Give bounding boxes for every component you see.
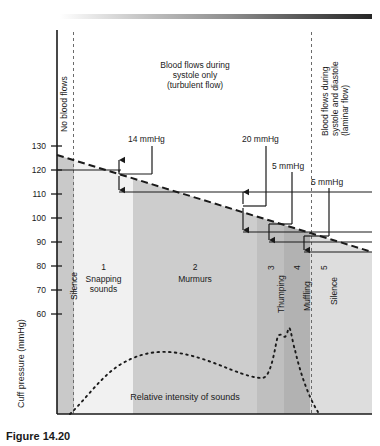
zone-4-label: Muffling [302, 281, 312, 311]
zone-1-label: Snapping sounds [74, 274, 133, 294]
relative-intensity-label: Relative intensity of sounds [105, 392, 265, 402]
turbulent-line-3: (turbulent flow) [130, 80, 260, 90]
zone-1-label-line1: Snapping [74, 274, 133, 284]
laminar-line-1: Blood flows during [320, 61, 330, 136]
zone-2-label: Murmurs [133, 274, 257, 284]
y-tick-60: 60 [22, 309, 46, 319]
zone-1-label-line2: sounds [74, 284, 133, 294]
turbulent-line-2: systole only [130, 70, 260, 80]
y-tick-70: 70 [22, 285, 46, 295]
top-label-turbulent-flow: Blood flows during systole only (turbule… [130, 60, 260, 90]
laminar-line-3: (laminar flow) [340, 61, 350, 136]
y-tick-120: 120 [22, 165, 46, 175]
laminar-line-2: systole and diastole [330, 61, 340, 136]
annotation-20-mmhg: 20 mmHg [242, 134, 279, 144]
annotation-14-mmhg: 14 mmHg [128, 134, 165, 144]
zone-5-label: Silence [329, 277, 339, 305]
zone-3-number: 3 [266, 265, 276, 270]
y-axis-title: Cuff pressure (mmHg) [16, 319, 26, 408]
pressure-gradient-bar [60, 14, 372, 19]
turbulent-line-1: Blood flows during [130, 60, 260, 70]
top-label-laminar-flow: Blood flows during systole and diastole … [320, 61, 350, 136]
zone-2-number: 2 [133, 262, 257, 272]
figure-caption: Figure 14.20 [6, 430, 70, 442]
y-tick-90: 90 [22, 237, 46, 247]
zone-5-number: 5 [319, 265, 329, 270]
zone-3-label: Thumping [276, 275, 286, 313]
top-label-no-blood-flows: No blood flows [60, 37, 70, 132]
y-tick-80: 80 [22, 261, 46, 271]
y-tick-110: 110 [22, 189, 46, 199]
y-tick-100: 100 [22, 213, 46, 223]
zone-1-number: 1 [74, 262, 133, 272]
annotation-5-mmhg-first: 5 mmHg [272, 161, 304, 171]
no-blood-flows-text: No blood flows [59, 76, 69, 132]
zone-4-number: 4 [292, 265, 302, 270]
y-tick-130: 130 [22, 141, 46, 151]
annotation-5-mmhg-second: 5 mmHg [311, 177, 343, 187]
